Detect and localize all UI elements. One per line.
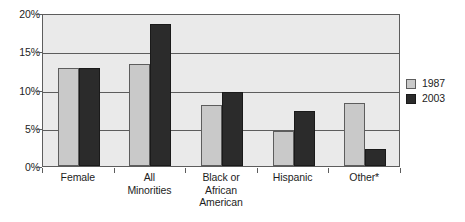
x-axis: FemaleAllMinoritiesBlack orAfricanAmeric… bbox=[42, 171, 400, 221]
x-axis-category-label: AllMinorities bbox=[114, 171, 186, 196]
bar bbox=[365, 149, 386, 166]
x-axis-category-label: Other* bbox=[328, 171, 400, 184]
y-axis-tick-label: 15% bbox=[2, 47, 40, 57]
legend-swatch-icon bbox=[406, 79, 416, 89]
x-axis-category-label-line: African bbox=[185, 184, 257, 197]
x-axis-category-label: Female bbox=[42, 171, 114, 184]
bar-chart: 0%5%10%15%20% FemaleAllMinoritiesBlack o… bbox=[0, 0, 465, 222]
legend-swatch-icon bbox=[406, 94, 416, 104]
legend-item: 2003 bbox=[406, 91, 465, 106]
y-axis-tick-label: 5% bbox=[2, 124, 40, 134]
y-axis-tick-label: 10% bbox=[2, 86, 40, 96]
y-axis-tick-label: 0% bbox=[2, 162, 40, 172]
y-axis-tick-mark bbox=[36, 14, 42, 15]
x-axis-tick-mark bbox=[328, 168, 329, 173]
x-axis-tick-mark bbox=[257, 168, 258, 173]
legend-item-label: 2003 bbox=[422, 93, 445, 104]
x-axis-tick-mark bbox=[400, 168, 401, 173]
bar bbox=[201, 105, 222, 166]
bar bbox=[273, 131, 294, 166]
bars-layer bbox=[43, 15, 399, 166]
x-axis-category-label-line: All bbox=[114, 171, 186, 184]
x-axis-category-label-line: American bbox=[185, 196, 257, 209]
x-axis-category-label-line: Hispanic bbox=[257, 171, 329, 184]
bar bbox=[294, 111, 315, 166]
x-axis-tick-mark bbox=[42, 168, 43, 173]
x-axis-category-label-line: Female bbox=[42, 171, 114, 184]
y-axis-tick-mark bbox=[36, 129, 42, 130]
bar bbox=[344, 103, 365, 166]
x-axis-category-label-line: Minorities bbox=[114, 184, 186, 197]
bar bbox=[79, 68, 100, 166]
legend-item-label: 1987 bbox=[422, 78, 445, 89]
bar bbox=[150, 24, 171, 166]
y-axis-tick-label: 20% bbox=[2, 9, 40, 19]
y-axis: 0%5%10%15%20% bbox=[0, 0, 40, 222]
bar bbox=[58, 68, 79, 166]
legend: 19872003 bbox=[406, 76, 465, 106]
x-axis-category-label: Hispanic bbox=[257, 171, 329, 184]
y-axis-tick-mark bbox=[36, 91, 42, 92]
x-axis-category-label: Black orAfricanAmerican bbox=[185, 171, 257, 209]
plot-area bbox=[42, 14, 400, 167]
x-axis-tick-mark bbox=[114, 168, 115, 173]
x-axis-category-label-line: Black or bbox=[185, 171, 257, 184]
bar bbox=[129, 64, 150, 166]
legend-item: 1987 bbox=[406, 76, 465, 91]
x-axis-category-label-line: Other* bbox=[328, 171, 400, 184]
bar bbox=[222, 92, 243, 166]
x-axis-tick-mark bbox=[185, 168, 186, 173]
y-axis-tick-mark bbox=[36, 52, 42, 53]
